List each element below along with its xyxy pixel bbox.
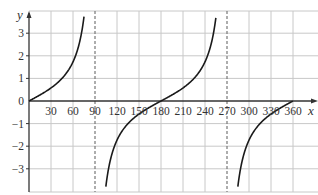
- y-tick-label: −2: [12, 140, 24, 152]
- tan-graph: 306090120150180210240270300330360 −3−2−1…: [0, 0, 318, 195]
- y-tick-label: 1: [18, 72, 24, 84]
- x-tick-label: 270: [218, 105, 236, 117]
- y-tick-label: −1: [12, 118, 24, 130]
- x-tick-label: 360: [284, 105, 302, 117]
- y-axis-label: y: [15, 7, 23, 22]
- x-tick-label: 60: [67, 105, 79, 117]
- y-tick-label: 2: [18, 50, 24, 62]
- x-tick-label: 90: [89, 105, 101, 117]
- y-axis-arrow-icon: [27, 11, 32, 18]
- y-tick-label: 0: [18, 95, 24, 107]
- x-tick-label: 330: [262, 105, 280, 117]
- x-tick-labels: 306090120150180210240270300330360: [45, 105, 302, 117]
- x-tick-label: 180: [152, 105, 170, 117]
- x-tick-label: 30: [45, 105, 57, 117]
- y-tick-label: 3: [18, 27, 24, 39]
- tan-branch-1: [29, 17, 84, 101]
- axes: [26, 11, 318, 192]
- x-tick-label: 240: [196, 105, 214, 117]
- x-tick-label: 300: [240, 105, 258, 117]
- x-tick-label: 210: [174, 105, 192, 117]
- x-tick-label: 150: [130, 105, 148, 117]
- y-tick-labels: −3−2−10123: [12, 27, 25, 175]
- y-tick-label: −3: [12, 163, 24, 175]
- x-tick-label: 120: [108, 105, 126, 117]
- x-axis-label: x: [307, 103, 314, 118]
